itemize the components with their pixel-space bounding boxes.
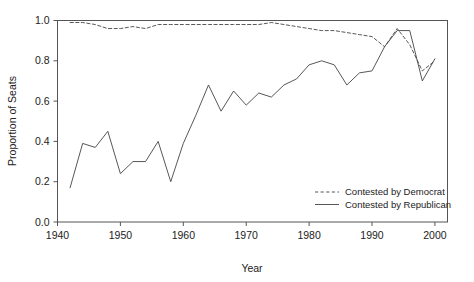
y-tick-label: 0.4 xyxy=(35,135,50,147)
y-tick-label: 0.8 xyxy=(35,54,50,66)
y-tick-label: 0.0 xyxy=(35,216,50,228)
x-tick-label: 2000 xyxy=(423,229,447,241)
x-tick-label: 1970 xyxy=(235,229,259,241)
y-tick-label: 0.2 xyxy=(35,175,50,187)
x-tick-label: 1980 xyxy=(297,229,321,241)
chart-container: 0.00.20.40.60.81.0 194019501960197019801… xyxy=(0,0,474,282)
x-tick-label: 1960 xyxy=(172,229,196,241)
y-tick-label: 1.0 xyxy=(35,14,50,26)
y-axis-title: Proportion of Seats xyxy=(6,76,18,166)
legend-label-1: Contested by Democrat xyxy=(345,186,445,197)
line-chart: 0.00.20.40.60.81.0 194019501960197019801… xyxy=(0,0,474,282)
legend-label-2: Contested by Republican xyxy=(345,199,451,210)
x-tick-label: 1990 xyxy=(360,229,384,241)
x-tick-label: 1940 xyxy=(46,229,70,241)
x-axis-title: Year xyxy=(241,262,263,274)
x-tick-label: 1950 xyxy=(109,229,133,241)
y-tick-label: 0.6 xyxy=(35,95,50,107)
